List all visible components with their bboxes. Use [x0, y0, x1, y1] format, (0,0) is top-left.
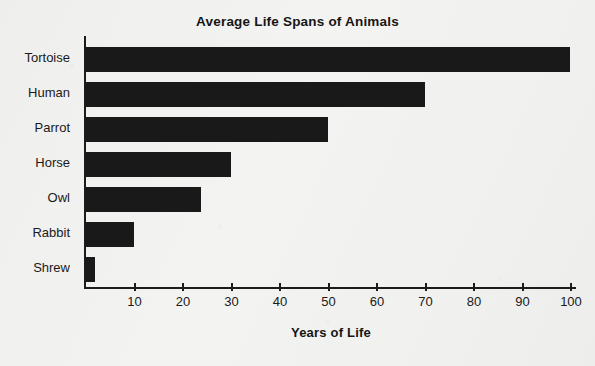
bar [85, 117, 328, 142]
x-tick-label: 80 [454, 294, 494, 309]
bar-chart: Average Life Spans of Animals TortoiseHu… [0, 0, 595, 366]
category-label: Owl [0, 190, 70, 205]
plot-area: TortoiseHumanParrotHorseOwlRabbitShrew [85, 36, 593, 288]
category-label: Rabbit [0, 225, 70, 240]
bar-row: Parrot [85, 117, 593, 142]
bar-row: Horse [85, 152, 593, 177]
x-tick-label: 40 [260, 294, 300, 309]
x-tick-label: 10 [115, 294, 155, 309]
x-tick [473, 283, 475, 291]
x-tick-label: 90 [503, 294, 543, 309]
bar-row: Owl [85, 187, 593, 212]
x-tick [522, 283, 524, 291]
x-tick [279, 283, 281, 291]
x-axis-title: Years of Life [85, 325, 577, 340]
bar [85, 152, 231, 177]
bar [85, 82, 425, 107]
bar-row: Human [85, 82, 593, 107]
bar-row: Shrew [85, 257, 593, 282]
x-tick [376, 283, 378, 291]
x-tick [231, 283, 233, 291]
bar-row: Tortoise [85, 47, 593, 72]
x-tick [134, 283, 136, 291]
category-label: Horse [0, 155, 70, 170]
bar-row: Rabbit [85, 222, 593, 247]
chart-title: Average Life Spans of Animals [0, 14, 595, 29]
category-label: Parrot [0, 120, 70, 135]
x-tick [570, 283, 572, 291]
x-tick-label: 60 [357, 294, 397, 309]
bar [85, 187, 201, 212]
x-tick [425, 283, 427, 291]
x-tick-label: 20 [163, 294, 203, 309]
bar [85, 222, 134, 247]
x-tick-label: 50 [309, 294, 349, 309]
bar [85, 47, 570, 72]
x-tick [182, 283, 184, 291]
category-label: Tortoise [0, 50, 70, 65]
x-tick-label: 100 [551, 294, 591, 309]
bar [85, 257, 95, 282]
category-label: Shrew [0, 260, 70, 275]
x-tick-label: 70 [406, 294, 446, 309]
x-tick [328, 283, 330, 291]
category-label: Human [0, 85, 70, 100]
x-tick-label: 30 [212, 294, 252, 309]
